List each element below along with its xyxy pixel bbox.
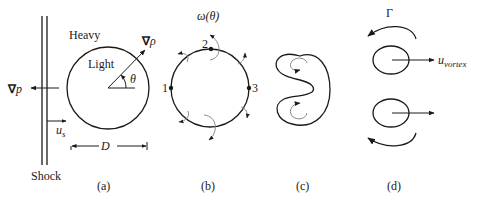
panel-b: ω(θ) 1 2 3 (b) <box>162 9 258 193</box>
panel-d: Γ uvortex (d) <box>368 6 467 193</box>
upper-circulation-arrow <box>368 27 416 39</box>
heavy-label: Heavy <box>69 28 100 42</box>
panel-c: (c) <box>276 54 330 193</box>
vorticity-arrows <box>178 35 247 140</box>
lower-circulation-arrow <box>368 133 416 146</box>
vorticity-label: ω(θ) <box>197 9 219 23</box>
point-3 <box>247 86 251 90</box>
u-vortex-label: uvortex <box>438 53 467 69</box>
theta-arc <box>121 75 126 88</box>
point-1 <box>169 86 173 90</box>
theta-label: θ <box>130 72 136 86</box>
grad-p-label: ∇p <box>7 82 22 96</box>
shock-bubble-diagram: Shock ∇p us Heavy Light ∇ρ θ D (a) ω(θ) <box>0 0 478 203</box>
panel-a-caption: (a) <box>97 179 110 193</box>
grad-rho-label: ∇ρ <box>141 34 156 48</box>
lower-vortex-arrow <box>290 103 307 119</box>
point-3-label: 3 <box>252 81 258 95</box>
point-2-label: 2 <box>202 37 208 51</box>
vorticity-circle <box>171 49 249 127</box>
shock-label: Shock <box>31 169 61 183</box>
deformed-bubble <box>276 54 330 125</box>
circulation-label: Γ <box>386 6 393 20</box>
point-1-label: 1 <box>162 81 168 95</box>
panel-c-caption: (c) <box>296 179 309 193</box>
point-2 <box>209 47 213 51</box>
diameter-label: D <box>100 139 110 153</box>
panel-b-caption: (b) <box>201 179 215 193</box>
panel-d-caption: (d) <box>387 179 401 193</box>
upper-vortex-arrow <box>290 58 307 70</box>
panel-a: Shock ∇p us Heavy Light ∇ρ θ D (a) <box>7 16 156 193</box>
light-label: Light <box>88 57 115 71</box>
u-s-label: us <box>56 123 66 139</box>
